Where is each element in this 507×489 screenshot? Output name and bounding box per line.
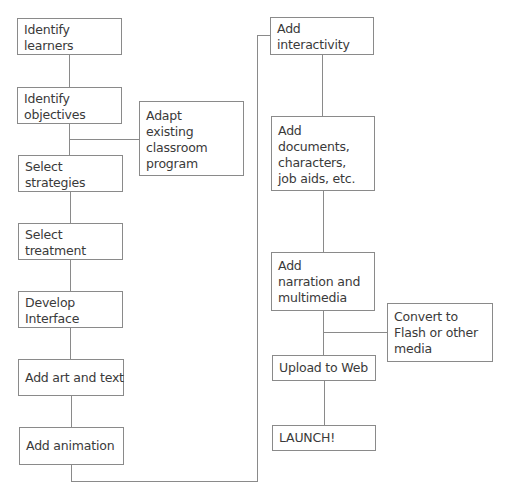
branch-adapt-existing-classroom-program: Adapt existing classroom program	[139, 101, 244, 176]
step-label-line: media	[394, 341, 486, 357]
connector-upload-launch	[324, 380, 325, 425]
step-label-line: characters,	[278, 155, 368, 171]
step-label-line: Develop	[25, 295, 116, 311]
connector-art-animation	[71, 395, 72, 427]
step-label-line: narration and	[278, 274, 368, 290]
step-label-line: objectives	[24, 107, 115, 123]
branch-convert-to-flash: Convert to Flash or other media	[387, 303, 493, 362]
step-label-line: Identify	[24, 22, 115, 38]
step-add-narration: Add narration and multimedia	[271, 252, 375, 311]
connector-strategies-treatment	[70, 191, 71, 223]
step-label-line: job aids, etc.	[278, 171, 368, 187]
step-label-line: Convert to	[394, 309, 486, 325]
connector-interface-art	[70, 327, 71, 359]
connector-learners-objectives	[69, 55, 70, 87]
connector-bottom-loop	[71, 481, 258, 482]
step-select-strategies: Select strategies	[18, 155, 123, 192]
step-label-line: Add	[277, 21, 367, 37]
step-add-documents: Add documents, characters, job aids, etc…	[271, 116, 375, 191]
step-label-line: Add	[278, 123, 368, 139]
step-label-line: Identify	[24, 91, 115, 107]
step-add-animation: Add animation	[19, 427, 124, 465]
step-label-line: Upload to Web	[279, 360, 368, 376]
step-label-line: multimedia	[278, 290, 368, 306]
connector-interactivity-documents	[322, 54, 323, 116]
step-label-line: Flash or other	[394, 325, 486, 341]
step-label-line: documents,	[278, 139, 368, 155]
step-label-line: Adapt	[146, 108, 237, 124]
step-label-line: classroom	[146, 140, 237, 156]
step-add-interactivity: Add interactivity	[270, 17, 374, 55]
connector-loop-up	[257, 35, 258, 482]
step-label-line: Add	[278, 258, 368, 274]
step-label-line: learners	[24, 38, 115, 54]
step-label-line: program	[146, 156, 237, 172]
step-develop-interface: Develop Interface	[18, 291, 123, 328]
step-upload-to-web: Upload to Web	[272, 355, 376, 381]
connector-animation-down	[71, 464, 72, 482]
connector-branch-adapt	[69, 139, 139, 140]
step-label-line: treatment	[25, 243, 116, 259]
step-label-line: interactivity	[277, 37, 367, 53]
connector-branch-convert	[323, 332, 387, 333]
step-label-line: Select	[25, 227, 116, 243]
step-label-line: strategies	[25, 175, 116, 191]
step-select-treatment: Select treatment	[18, 223, 123, 260]
step-identify-objectives: Identify objectives	[17, 87, 122, 124]
step-label-line: LAUNCH!	[279, 430, 335, 446]
step-label-line: Select	[25, 159, 116, 175]
step-launch: LAUNCH!	[272, 425, 376, 451]
step-label-line: Add art and text	[25, 370, 124, 386]
step-label-line: existing	[146, 124, 237, 140]
step-label-line: Interface	[25, 311, 116, 327]
connector-treatment-interface	[70, 259, 71, 291]
step-identify-learners: Identify learners	[17, 18, 122, 55]
step-label-line: Add animation	[26, 438, 114, 454]
step-add-art-and-text: Add art and text	[18, 359, 124, 396]
connector-documents-narration	[323, 190, 324, 252]
connector-loop-to-interactivity	[257, 35, 270, 36]
